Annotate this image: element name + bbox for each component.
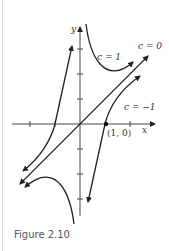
point-label: (1, 0) [107, 128, 131, 138]
point-1-0-marker [104, 122, 108, 126]
figure-plot: y x (1, 0) c = 1 c = 0 c = −1 [0, 0, 169, 251]
y-axis-label: y [70, 24, 77, 34]
curve-label-c-minus-1: c = −1 [124, 102, 156, 112]
x-axis [12, 121, 155, 127]
curve-label-c-1: c = 1 [97, 52, 121, 62]
x-axis-label: x [142, 125, 147, 135]
curve-label-c-0: c = 0 [138, 41, 162, 51]
figure-caption: Figure 2.10 [14, 229, 70, 240]
curve-c-0 [20, 56, 148, 184]
